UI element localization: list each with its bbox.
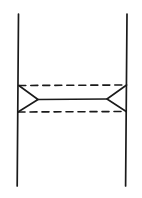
diagram-canvas	[0, 0, 142, 198]
diagram-svg	[0, 0, 142, 198]
upper-dashed-line	[19, 85, 127, 86]
central-horizontal-line	[38, 99, 107, 100]
